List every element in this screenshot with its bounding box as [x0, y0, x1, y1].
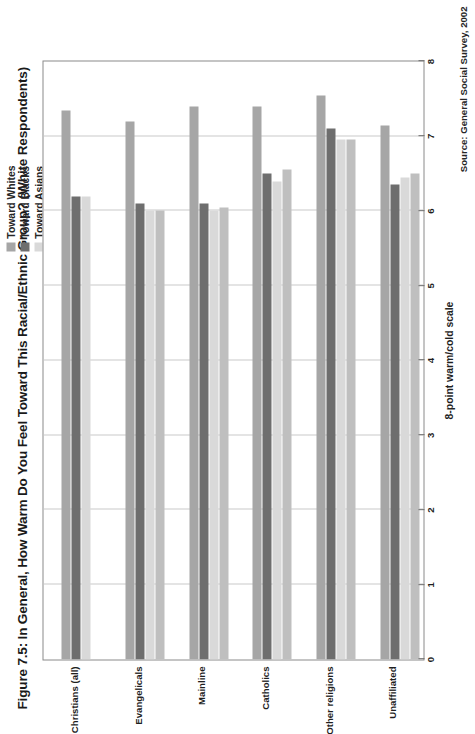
tick-mark [418, 658, 424, 659]
bar [262, 173, 271, 659]
bar [336, 140, 345, 660]
bar-group [43, 61, 107, 659]
bar-row [282, 60, 291, 659]
bar [410, 173, 419, 659]
bar [316, 95, 325, 659]
legend-item: Toward Blacks [18, 150, 31, 251]
bar-group [107, 61, 171, 659]
bar-row [346, 60, 355, 659]
bar-row [390, 60, 399, 659]
bar [400, 177, 409, 659]
category-label: Evangelicals [132, 666, 143, 724]
bar [81, 196, 90, 659]
category-label: Mainline [196, 666, 207, 704]
tick-mark [418, 509, 424, 510]
plot-area-wrapper [42, 60, 424, 660]
tick-mark [418, 135, 424, 136]
bar-row [155, 60, 164, 659]
bar-row [71, 60, 80, 659]
bar [272, 181, 281, 659]
bar-row [209, 60, 218, 659]
bar-row [189, 60, 198, 659]
bar [326, 128, 335, 659]
source-note: Source: General Social Survey, 2002 [457, 6, 468, 172]
value-tick-label: 5 [424, 283, 435, 288]
bar [189, 106, 198, 659]
value-tick-label: 0 [424, 656, 435, 661]
value-tick-label: 8 [424, 58, 435, 63]
tick-mark [418, 284, 424, 285]
value-axis-title: 8-point warm/cold scale [443, 60, 454, 660]
value-tick-label: 4 [424, 357, 435, 362]
bar [155, 211, 164, 660]
tick-mark [418, 359, 424, 360]
bar-row [125, 60, 134, 659]
bar [125, 121, 134, 659]
value-tick-label: 2 [424, 507, 435, 512]
category-axis-labels: Christians (all)EvangelicalsMainlineCath… [42, 662, 424, 717]
category-label: Unaffiliated [387, 666, 398, 718]
bar-row [400, 60, 409, 659]
tick-mark [418, 583, 424, 584]
plot-area [42, 60, 424, 660]
bar-row [199, 60, 208, 659]
bar-row [145, 60, 154, 659]
legend-swatch-icon [20, 242, 29, 251]
bar-row [219, 60, 228, 659]
bar-row [135, 60, 144, 659]
bar-group [298, 61, 362, 659]
bar-row [262, 60, 271, 659]
value-tick-label: 7 [424, 133, 435, 138]
bar-row [336, 60, 345, 659]
value-tick-label: 3 [424, 432, 435, 437]
bar [219, 207, 228, 659]
legend-item-label: Toward Whites [5, 165, 16, 238]
bar [282, 169, 291, 659]
bar-group [361, 61, 424, 659]
value-tick-label: 1 [424, 582, 435, 587]
bar [252, 106, 261, 659]
tick-mark [418, 60, 424, 61]
bar-row [410, 60, 419, 659]
value-axis-ticks: 012345678 [424, 60, 442, 660]
bar [61, 110, 70, 659]
bar-row [380, 60, 389, 659]
category-label: Christians (all) [68, 666, 79, 733]
bar [135, 203, 144, 659]
bar [209, 211, 218, 660]
bar-row [61, 60, 70, 659]
bar [390, 184, 399, 659]
bar-group [234, 61, 298, 659]
bar-row [316, 60, 325, 659]
value-tick-label: 6 [424, 208, 435, 213]
tick-mark [418, 434, 424, 435]
category-label: Catholics [259, 666, 270, 709]
bar [145, 211, 154, 660]
bar-row [272, 60, 281, 659]
category-label: Other religions [323, 666, 334, 734]
bar [199, 203, 208, 659]
bar [380, 125, 389, 659]
legend-swatch-icon [6, 242, 15, 251]
bar-group [170, 61, 234, 659]
bar [346, 140, 355, 660]
bar [71, 196, 80, 659]
tick-mark [418, 210, 424, 211]
bar-row [252, 60, 261, 659]
bar-row [326, 60, 335, 659]
bar-row [81, 60, 90, 659]
legend-item-label: Toward Blacks [19, 166, 30, 239]
legend-item: Toward Whites [4, 150, 17, 251]
